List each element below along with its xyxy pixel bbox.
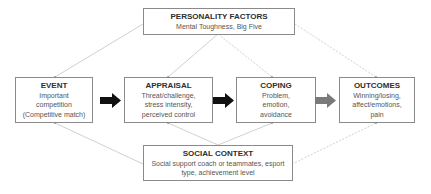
- event-title: EVENT: [41, 81, 68, 91]
- event-line-2: competition: [36, 100, 72, 110]
- outcomes-box: OUTCOMES Winning/losing, affect/emotions…: [339, 77, 415, 123]
- coping-line-2: emotion,: [263, 100, 290, 110]
- appraisal-line-3: perceived control: [142, 110, 195, 120]
- arrow-appraisal-to-coping-icon: [213, 93, 234, 108]
- outcomes-line-3: pain: [370, 110, 383, 120]
- event-line-1: Important: [39, 91, 69, 101]
- personality-title: PERSONALITY FACTORS: [170, 12, 267, 22]
- social-title: SOCIAL CONTEXT: [183, 149, 254, 159]
- appraisal-line-1: Threat/challenge,: [141, 91, 195, 101]
- outcomes-line-2: affect/emotions,: [352, 100, 401, 110]
- personality-text: Mental Toughness, Big Five: [176, 22, 262, 32]
- outcomes-title: OUTCOMES: [354, 81, 400, 91]
- social-line-2: type, achievement level: [181, 168, 254, 178]
- social-context-box: SOCIAL CONTEXT Social support coach or t…: [143, 145, 293, 181]
- coping-line-1: Problem,: [262, 91, 290, 101]
- outcomes-line-1: Winning/losing,: [353, 91, 400, 101]
- appraisal-box: APPRAISAL Threat/challenge, stress inten…: [124, 77, 213, 123]
- event-line-3: (Competitive match): [23, 110, 86, 120]
- arrow-coping-to-outcomes-icon: [315, 93, 336, 108]
- coping-box: COPING Problem, emotion, avoidance: [236, 77, 316, 123]
- appraisal-line-2: stress intensity,: [145, 100, 193, 110]
- personality-factors-box: PERSONALITY FACTORS Mental Toughness, Bi…: [143, 8, 295, 35]
- event-box: EVENT Important competition (Competitive…: [15, 77, 93, 123]
- social-line-1: Social support coach or teammates, espor…: [151, 159, 284, 169]
- coping-line-3: avoidance: [260, 110, 292, 120]
- appraisal-title: APPRAISAL: [145, 81, 191, 91]
- coping-title: COPING: [260, 81, 292, 91]
- arrow-event-to-appraisal-icon: [100, 93, 121, 108]
